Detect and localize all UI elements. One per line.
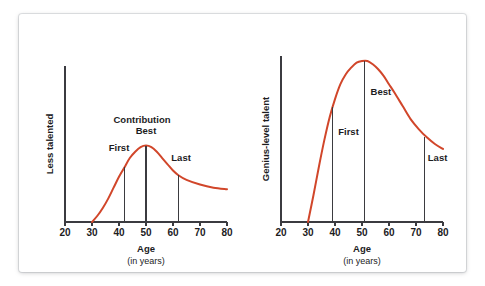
x-axis-title: Age <box>353 243 371 254</box>
annotation-label: Best <box>370 86 391 97</box>
x-axis-tick-label: 20 <box>275 227 287 238</box>
data-curve <box>92 146 227 222</box>
x-axis-title: Age <box>137 243 155 254</box>
x-axis-subtitle: (in years) <box>127 256 165 266</box>
region-label: Contribution <box>114 114 171 125</box>
chart-panel-less-talented: 20304050607080FirstBestLastContributionA… <box>19 14 243 272</box>
annotation-label: Last <box>171 152 191 163</box>
x-axis-tick-label: 40 <box>113 227 125 238</box>
x-axis-tick-label: 80 <box>437 227 449 238</box>
x-axis-tick-label: 70 <box>194 227 206 238</box>
y-axis-title: Less talented <box>44 113 55 174</box>
x-axis-tick-label: 60 <box>167 227 179 238</box>
x-axis-tick-label: 50 <box>356 227 368 238</box>
chart-canvas-left: 20304050607080FirstBestLastContributionA… <box>19 14 243 272</box>
annotation-label: Best <box>136 125 157 136</box>
figure-card: 20304050607080FirstBestLastContributionA… <box>19 14 466 272</box>
y-axis-title: Genius-level talent <box>260 96 271 181</box>
x-axis-subtitle: (in years) <box>343 256 381 266</box>
x-axis-tick-label: 50 <box>140 227 152 238</box>
x-axis-tick-label: 80 <box>221 227 233 238</box>
annotation-label: Last <box>427 152 447 163</box>
annotation-label: First <box>109 142 130 153</box>
chart-panel-genius-level: 20304050607080FirstBestLastAge(in years)… <box>243 14 467 272</box>
chart-canvas-right: 20304050607080FirstBestLastAge(in years)… <box>243 14 467 272</box>
charts-row: 20304050607080FirstBestLastContributionA… <box>19 14 466 272</box>
x-axis-tick-label: 70 <box>410 227 422 238</box>
x-axis-tick-label: 30 <box>302 227 314 238</box>
x-axis-tick-label: 30 <box>86 227 98 238</box>
data-curve <box>308 61 443 222</box>
annotation-label: First <box>338 126 359 137</box>
x-axis-tick-label: 20 <box>59 227 71 238</box>
x-axis-tick-label: 60 <box>383 227 395 238</box>
x-axis-tick-label: 40 <box>329 227 341 238</box>
